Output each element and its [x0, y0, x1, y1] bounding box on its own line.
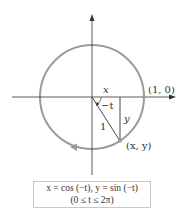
start-point-marker — [142, 95, 146, 99]
label-x: x — [103, 84, 109, 95]
unit-circle-diagram: x −t y 1 (1, 0) (x, y) — [0, 0, 181, 211]
caption-parametric-equations: x = cos (−t), y = sin (−t) — [34, 183, 150, 195]
moving-point-marker — [118, 139, 122, 143]
label-start-point: (1, 0) — [148, 84, 175, 95]
label-y: y — [123, 113, 130, 124]
label-moving-point: (x, y) — [126, 140, 152, 151]
equation-caption: x = cos (−t), y = sin (−t) (0 ≤ t ≤ 2π) — [33, 181, 151, 208]
y-axis-arrow-icon — [90, 14, 95, 21]
label-radius: 1 — [100, 121, 106, 132]
caption-parameter-range: (0 ≤ t ≤ 2π) — [34, 195, 150, 207]
x-axis-arrow-icon — [169, 95, 176, 100]
label-angle: −t — [101, 100, 113, 111]
